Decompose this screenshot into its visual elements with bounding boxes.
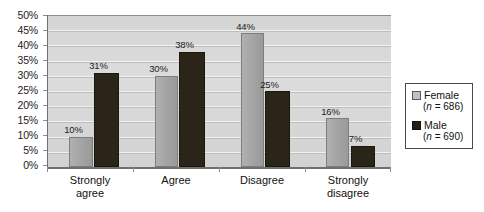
y-axis-tick-label: 50% <box>18 10 38 20</box>
legend-n-male: (n = 690) <box>423 131 467 143</box>
category-line-1: Strongly <box>305 174 391 187</box>
y-axis-tick-label: 20% <box>18 100 38 110</box>
y-axis-tick-label: 15% <box>18 115 38 125</box>
bar-disagree-male <box>265 91 290 167</box>
x-axis-category-strongly-disagree: Strongly disagree <box>305 174 391 200</box>
x-axis-category-agree: Agree <box>133 174 219 187</box>
x-axis-tick-mark <box>305 167 306 172</box>
bar-chart: 50% 45% 40% 35% 30% 25% 20% 15% 10% 5% 0… <box>0 0 484 212</box>
bar-strongly-agree-male <box>94 73 119 167</box>
y-axis-tick-label: 25% <box>18 85 38 95</box>
category-line-1: Agree <box>133 174 219 187</box>
x-axis-category-strongly-agree: Strongly agree <box>47 174 133 200</box>
data-label-disagree-male: 25% <box>252 80 287 90</box>
gridline <box>48 45 391 46</box>
legend-n-female: (n = 686) <box>423 101 467 113</box>
y-axis-tick-label: 0% <box>23 160 38 170</box>
y-axis-tick-label: 40% <box>18 40 38 50</box>
x-axis-tick-mark <box>47 167 48 172</box>
category-line-2: agree <box>47 187 133 200</box>
plot-area <box>47 15 391 167</box>
bar-agree-male <box>179 52 205 168</box>
legend-label-male: Male <box>424 120 447 131</box>
y-axis-tick-label: 30% <box>18 70 38 80</box>
x-axis-tick-mark <box>133 167 134 172</box>
data-label-strongly-disagree-male: 7% <box>338 134 373 144</box>
legend-swatch-female-icon <box>412 91 421 100</box>
data-label-strongly-agree-male: 31% <box>81 61 116 71</box>
legend-swatch-male-icon <box>412 121 421 130</box>
legend: Female (n = 686) Male (n = 690) <box>405 83 473 149</box>
data-label-strongly-agree-female: 10% <box>56 125 91 135</box>
x-axis-category-disagree: Disagree <box>219 174 305 187</box>
x-axis-tick-mark <box>390 167 391 172</box>
category-line-1: Strongly <box>47 174 133 187</box>
y-axis-tick-label: 35% <box>18 55 38 65</box>
y-axis-tick-label: 45% <box>18 25 38 35</box>
bar-strongly-agree-female <box>69 137 93 167</box>
y-axis-tick-label: 5% <box>23 145 38 155</box>
y-axis-tick-label: 10% <box>18 130 38 140</box>
bar-disagree-female <box>241 33 264 167</box>
legend-item-male: Male (n = 690) <box>412 120 467 143</box>
bar-agree-female <box>155 76 178 167</box>
legend-item-female: Female (n = 686) <box>412 90 467 113</box>
y-axis: 50% 45% 40% 35% 30% 25% 20% 15% 10% 5% 0… <box>0 10 42 170</box>
legend-label-female: Female <box>424 90 459 101</box>
bar-strongly-disagree-male <box>351 146 375 167</box>
data-label-disagree-female: 44% <box>228 22 263 32</box>
data-label-strongly-disagree-female: 16% <box>313 107 348 117</box>
gridline <box>48 30 391 31</box>
data-label-agree-female: 30% <box>141 64 176 74</box>
x-axis-tick-mark <box>219 167 220 172</box>
category-line-2: disagree <box>305 187 391 200</box>
category-line-1: Disagree <box>219 174 305 187</box>
plot-top-border <box>48 15 391 16</box>
data-label-agree-male: 38% <box>167 40 202 50</box>
